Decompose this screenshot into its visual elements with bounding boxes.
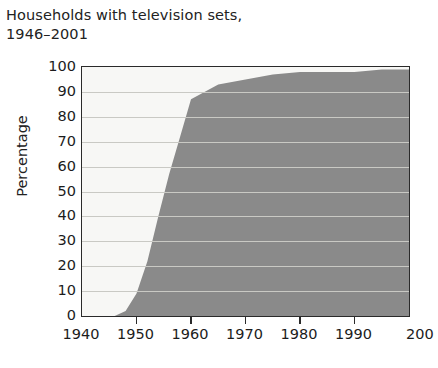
x-tick-mark-1950 xyxy=(136,317,138,324)
x-tick-2000: 200 xyxy=(406,326,438,343)
gridline-10 xyxy=(82,291,409,292)
x-tick-mark-1990 xyxy=(354,317,356,324)
y-tick-20: 20 xyxy=(40,258,76,273)
x-tick-mark-1960 xyxy=(190,317,192,324)
y-tick-90: 90 xyxy=(40,84,76,99)
gridline-20 xyxy=(82,266,409,267)
y-tick-10: 10 xyxy=(40,283,76,298)
gridline-70 xyxy=(82,142,409,143)
y-axis-label: Percentage xyxy=(14,96,30,216)
y-tick-100: 100 xyxy=(40,59,76,74)
y-tick-60: 60 xyxy=(40,159,76,174)
plot-area xyxy=(81,66,410,317)
y-tick-80: 80 xyxy=(40,109,76,124)
x-tick-1980: 1980 xyxy=(269,326,329,343)
x-tick-1960: 1960 xyxy=(160,326,220,343)
y-tick-50: 50 xyxy=(40,184,76,199)
y-tick-70: 70 xyxy=(40,134,76,149)
gridline-30 xyxy=(82,241,409,242)
y-tick-40: 40 xyxy=(40,208,76,223)
y-tick-0: 0 xyxy=(40,308,76,323)
x-tick-mark-1980 xyxy=(299,317,301,324)
gridline-40 xyxy=(82,216,409,217)
x-tick-1970: 1970 xyxy=(215,326,275,343)
x-tick-1950: 1950 xyxy=(106,326,166,343)
x-tick-1990: 1990 xyxy=(324,326,384,343)
x-axis-tick-labels: 194019501960197019801990200 xyxy=(81,317,408,357)
chart-title: Households with television sets, 1946–20… xyxy=(6,6,406,44)
gridline-90 xyxy=(82,92,409,93)
gridline-60 xyxy=(82,167,409,168)
gridline-80 xyxy=(82,117,409,118)
gridline-50 xyxy=(82,192,409,193)
x-tick-1940: 1940 xyxy=(51,326,111,343)
y-axis-tick-labels: 1009080706050403020100 xyxy=(32,66,76,315)
x-tick-mark-1970 xyxy=(245,317,247,324)
y-tick-30: 30 xyxy=(40,233,76,248)
